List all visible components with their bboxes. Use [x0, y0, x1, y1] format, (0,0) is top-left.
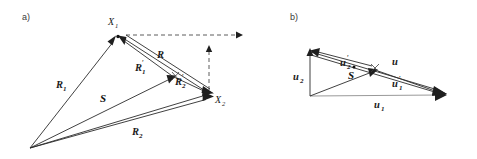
label-R1: R 1	[55, 79, 67, 93]
svg-text:2: 2	[138, 132, 143, 140]
label-u2: u 2	[293, 71, 304, 85]
svg-text:1: 1	[63, 85, 67, 93]
prime-mark-u2: ′	[347, 54, 349, 63]
panel-a: a)	[22, 12, 243, 148]
svg-text:u: u	[293, 71, 299, 82]
svg-text:u: u	[392, 78, 398, 89]
vector-R1-prime	[118, 36, 175, 79]
svg-text:1: 1	[399, 84, 403, 92]
panel-a-tag: a)	[22, 12, 30, 22]
vector-u	[311, 52, 447, 95]
svg-text:1: 1	[381, 105, 385, 113]
svg-text:R: R	[174, 76, 182, 87]
svg-text:X: X	[214, 94, 222, 105]
vector-S	[30, 75, 176, 148]
label-u1-prime: u ′ 1	[392, 75, 403, 92]
prime-mark-R2: ′	[182, 73, 184, 82]
point-label-X2: X 2	[214, 94, 226, 107]
svg-text:S: S	[100, 92, 106, 104]
label-R2-prime: R ′ 2	[174, 73, 186, 90]
vector-u1-prime	[378, 71, 447, 96]
svg-text:u: u	[374, 99, 380, 110]
svg-text:X: X	[107, 16, 115, 27]
point-marker-X1	[116, 35, 119, 38]
svg-text:2: 2	[299, 77, 304, 85]
label-S: S	[100, 92, 106, 104]
label-R1-prime: R ′ 1	[134, 59, 146, 76]
svg-text:u: u	[392, 56, 398, 67]
label-u1: u 1	[374, 99, 385, 113]
svg-text:2: 2	[181, 82, 186, 90]
svg-text:1: 1	[115, 22, 118, 29]
label-R: R	[156, 49, 164, 60]
vector-R2	[30, 92, 214, 149]
label-R2: R 2	[131, 126, 143, 140]
svg-text:u: u	[340, 57, 346, 68]
svg-text:2: 2	[222, 100, 226, 107]
label-u: u	[392, 56, 398, 67]
vector-diagram-svg: a)	[0, 0, 477, 159]
svg-text:S: S	[348, 69, 354, 81]
svg-text:R: R	[131, 126, 139, 137]
dashed-vertical-reference-arrow	[206, 45, 212, 90]
svg-text:R: R	[55, 79, 63, 90]
prime-mark-R1: ′	[142, 59, 144, 68]
dashed-horizontal-reference-arrow	[126, 32, 243, 39]
overdot-marker	[353, 66, 356, 69]
svg-text:R: R	[134, 62, 142, 73]
svg-text:R: R	[156, 49, 164, 60]
point-label-X1: X 1	[107, 16, 118, 29]
prime-mark-u1: ′	[399, 75, 401, 84]
panel-b: b)	[290, 12, 447, 113]
panel-b-tag: b)	[290, 12, 298, 22]
figure-root: a)	[0, 0, 477, 159]
svg-text:1: 1	[142, 68, 146, 76]
